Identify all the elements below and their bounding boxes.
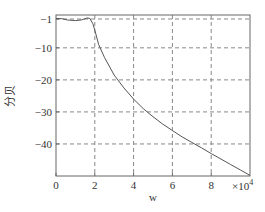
data-line <box>56 18 250 175</box>
y-tick-label: −1 <box>40 13 52 25</box>
y-tick-label: −20 <box>35 74 53 86</box>
y-tick-label: −40 <box>35 138 53 150</box>
grid-lines <box>56 15 250 176</box>
y-tick-label: −30 <box>35 106 53 118</box>
x-axis-label: w <box>149 191 157 203</box>
x-tick-label: 4 <box>131 179 137 191</box>
plot-area-frame <box>56 15 250 176</box>
y-axis-ticks: −1−10−20−30−40 <box>35 13 59 150</box>
x-tick-label: 0 <box>53 179 59 191</box>
x-tick-label: 8 <box>208 179 214 191</box>
chart: 02468 −1−10−20−30−40 w 分贝 ×104 <box>0 0 265 212</box>
x-tick-label: 6 <box>170 179 176 191</box>
x-tick-label: 2 <box>92 179 98 191</box>
x-axis-multiplier: ×104 <box>232 178 253 192</box>
y-tick-label: −10 <box>35 42 53 54</box>
y-axis-label: 分贝 <box>4 85 16 107</box>
